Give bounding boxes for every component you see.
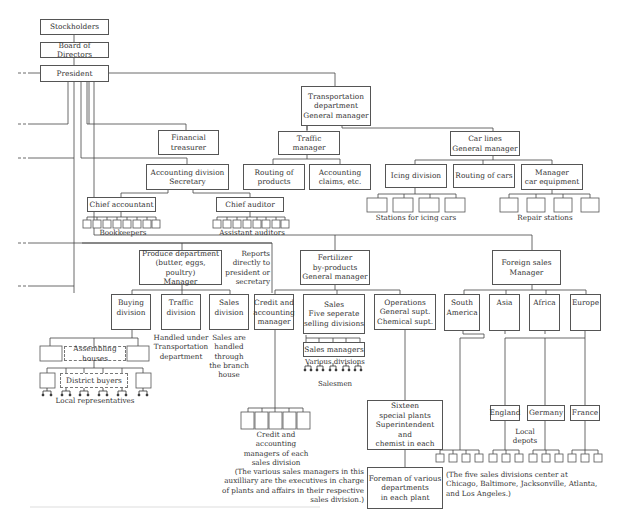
label-bookkeepers: Bookkeepers [88, 228, 158, 237]
node-credit-accounting-manager: Credit and accounting manager [254, 294, 294, 330]
node-board-of-directors: Board of Directors [40, 42, 109, 58]
node-south-america: South America [444, 294, 480, 331]
node-england: England [490, 405, 520, 421]
label-reports-directly: Reports directly to president or secreta… [225, 249, 270, 286]
label-salesmen: Salesmen [313, 380, 357, 389]
node-routing-of-products: Routing of products [243, 164, 305, 190]
node-germany: Germany [527, 405, 565, 421]
label-sales-handled-branch: Sales are handled through the branch hou… [207, 333, 251, 379]
node-icing-division: Icing division [385, 164, 447, 188]
node-buying-division: Buying division [111, 294, 151, 330]
note-five-sales-divisions: (The five sales divisions center at Chic… [446, 470, 611, 498]
node-manager-car-equipment: Manager car equipment [521, 164, 583, 190]
label-credit-managers-each: Credit and accounting managers of each s… [236, 430, 316, 467]
node-foreign-sales: Foreign sales Manager [492, 250, 561, 285]
node-car-lines: Car lines General manager [450, 131, 520, 156]
node-sales-division: Sales division [209, 294, 249, 330]
label-assistant-auditors: Assistant auditors [212, 228, 292, 237]
node-africa: Africa [529, 294, 560, 331]
node-traffic-division: Traffic division [161, 294, 201, 330]
node-asia: Asia [489, 294, 520, 331]
node-sales-managers: Sales managers [303, 342, 365, 357]
node-chief-accountant: Chief accountant [87, 197, 156, 212]
node-france: France [570, 405, 600, 421]
label-repair-stations: Repair stations [510, 213, 580, 222]
label-local-depots: Local depots [510, 427, 540, 446]
node-operations: Operations General supt. Chemical supt. [374, 294, 436, 330]
node-assembling-houses: Assembling houses [64, 346, 126, 361]
node-stockholders: Stockholders [40, 19, 109, 35]
label-handled-transportation: Handled under Transportation department [153, 333, 209, 361]
node-routing-of-cars: Routing of cars [453, 164, 515, 188]
label-various-divisions: Various divisions [303, 358, 367, 367]
label-local-representatives: Local representatives [45, 396, 145, 405]
node-sixteen-special-plants: Sixteen special plants Superintendent an… [367, 400, 443, 450]
node-chief-auditor: Chief auditor [216, 197, 284, 212]
note-sales-managers: (The various sales managers in this auxi… [212, 467, 364, 504]
node-transportation-department: Transportation department General manage… [301, 86, 371, 126]
node-accounting-division: Accounting division Secretary [146, 164, 229, 190]
node-district-buyers: District buyers [60, 373, 128, 388]
node-foreman: Foreman of various departments in each p… [367, 467, 443, 509]
node-produce-department: Produce department (butter, eggs, poultr… [139, 250, 222, 285]
node-financial-treasurer: Financial treasurer [158, 130, 219, 155]
node-traffic-manager: Traffic manager [278, 131, 340, 155]
node-accounting-claims: Accounting claims, etc. [309, 164, 371, 190]
node-president: President [40, 65, 109, 82]
node-sales-five-divisions: Sales Five seperate selling divisions [303, 294, 365, 334]
label-stations-icing-cars: Stations for icing cars [370, 213, 462, 222]
node-fertilizer: Fertilizer by-products General manager [300, 250, 370, 285]
node-europe: Europe [570, 294, 601, 331]
